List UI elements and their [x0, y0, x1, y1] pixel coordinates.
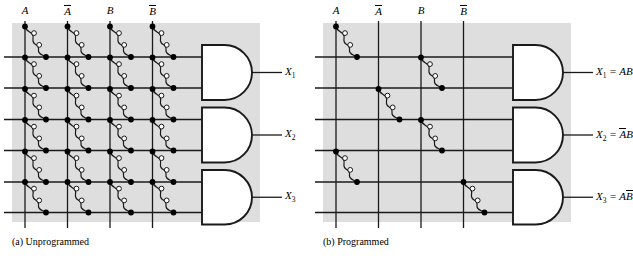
connection-dot [439, 148, 445, 154]
array-schematic [311, 0, 621, 260]
connection-dot [22, 179, 28, 185]
fuse-link[interactable] [65, 24, 92, 60]
connection-dot [86, 85, 92, 91]
fuse-link[interactable] [65, 117, 92, 153]
fuse-link[interactable] [65, 86, 92, 122]
fuse-link[interactable] [107, 117, 134, 153]
fuse-link[interactable] [107, 55, 134, 91]
and-gate-2[interactable] [513, 108, 563, 163]
fuse-open-circle [164, 105, 169, 110]
connection-dot [354, 179, 360, 185]
output-label-1: X1 = AB [596, 66, 633, 80]
fuse-open-circle [164, 136, 169, 141]
fuse-link[interactable] [150, 117, 177, 153]
and-gate-1[interactable] [202, 45, 252, 100]
fuse-link[interactable] [418, 117, 445, 153]
and-gate-1[interactable] [513, 45, 563, 100]
fuse-open-circle [343, 156, 348, 161]
fuse-open-circle [74, 186, 79, 191]
input-label-2: A [54, 5, 82, 17]
fuse-open-circle [122, 168, 127, 173]
fuse-link[interactable] [376, 86, 403, 122]
fuse-open-circle [74, 31, 79, 36]
input-label-2: A [365, 5, 393, 17]
fuse-open-circle [433, 136, 438, 141]
fuse-link[interactable] [150, 86, 177, 122]
connection-dot [150, 117, 156, 123]
connection-dot [171, 54, 177, 60]
fuse-link[interactable] [333, 149, 360, 185]
fuse-open-circle [79, 168, 84, 173]
expr-term: A [619, 190, 626, 202]
fuse-link[interactable] [107, 86, 134, 122]
output-symbol: X [285, 65, 292, 77]
fuse-link[interactable] [22, 24, 49, 60]
fuse-open-circle [433, 74, 438, 79]
connection-dot [376, 86, 382, 92]
connection-dot [22, 117, 28, 123]
connection-dot [65, 179, 71, 185]
connection-dot [482, 210, 488, 216]
fuse-open-circle [122, 198, 127, 203]
connection-dot [171, 148, 177, 154]
fuse-open-circle [164, 198, 169, 203]
fuse-link[interactable] [22, 117, 49, 153]
fuse-open-circle [117, 186, 122, 191]
and-gate-3[interactable] [202, 170, 252, 225]
fuse-open-circle [74, 93, 79, 98]
fuse-open-circle [37, 105, 42, 110]
fuse-open-circle [37, 74, 42, 79]
fuse-open-circle [428, 62, 433, 67]
fuse-open-circle [164, 168, 169, 173]
fuse-open-circle [122, 43, 127, 48]
fuse-link[interactable] [150, 55, 177, 91]
connection-dot [43, 54, 49, 60]
fuse-open-circle [122, 74, 127, 79]
panel-unprogrammed: AABBX1X2X3(a) Unprogrammed [0, 0, 310, 260]
connection-dot [107, 149, 113, 155]
connection-dot [86, 148, 92, 154]
equals-sign: = [606, 190, 619, 202]
output-symbol: X [285, 189, 292, 201]
fuse-open-circle [348, 168, 353, 173]
output-symbol: X [596, 65, 603, 77]
fuse-open-circle [74, 62, 79, 67]
connection-dot [65, 24, 71, 30]
connection-dot [150, 179, 156, 185]
fuse-link[interactable] [22, 55, 49, 91]
fuse-link[interactable] [333, 24, 360, 60]
fuse-open-circle [343, 31, 348, 36]
fuse-link[interactable] [22, 86, 49, 122]
fuse-link[interactable] [65, 55, 92, 91]
connection-dot [65, 55, 71, 61]
connection-dot [107, 55, 113, 61]
fuse-link[interactable] [150, 24, 177, 60]
connection-dot [128, 210, 134, 216]
fuse-open-circle [79, 43, 84, 48]
connection-dot [150, 24, 156, 30]
fuse-open-circle [164, 43, 169, 48]
input-label-3: B [96, 5, 124, 16]
output-symbol: X [285, 127, 292, 139]
connection-dot [43, 179, 49, 185]
and-gate-2[interactable] [202, 108, 252, 163]
expr-term: B [626, 65, 633, 77]
connection-dot [171, 117, 177, 123]
output-subscript: 3 [292, 195, 296, 204]
output-symbol: X [596, 128, 603, 140]
connection-dot [128, 148, 134, 154]
connection-dot [86, 179, 92, 185]
fuse-open-circle [74, 156, 79, 161]
connection-dot [333, 24, 339, 30]
input-label-1: A [11, 5, 39, 16]
connection-dot [22, 55, 28, 61]
output-subscript: 2 [292, 133, 296, 142]
fuse-open-circle [159, 31, 164, 36]
output-label-1: X1 [285, 66, 295, 80]
fuse-open-circle [32, 31, 37, 36]
and-gate-3[interactable] [513, 170, 563, 225]
fuse-link[interactable] [418, 55, 445, 91]
connection-dot [107, 24, 113, 30]
fuse-link[interactable] [461, 179, 488, 215]
fuse-link[interactable] [107, 24, 134, 60]
